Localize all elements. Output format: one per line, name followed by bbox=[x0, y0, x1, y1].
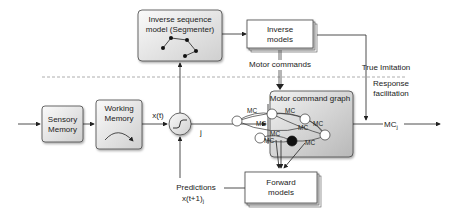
svg-text:MC: MC bbox=[285, 107, 295, 114]
response-facilitation-label-1: Response bbox=[373, 79, 410, 88]
svg-text:MC: MC bbox=[313, 120, 323, 127]
forward-models-label-1: Forward bbox=[266, 178, 295, 187]
sigmoid-threshold-node bbox=[169, 113, 191, 135]
true-imitation-label: True Imitation bbox=[362, 63, 411, 72]
forward-models-box: Forward models bbox=[245, 172, 321, 207]
svg-text:MC: MC bbox=[256, 120, 266, 127]
inverse-models-label-1: Inverse bbox=[267, 25, 294, 34]
sensory-memory-box: Sensory Memory bbox=[42, 106, 83, 142]
inverse-sequence-model-label-2: model (Segmenter) bbox=[146, 25, 215, 34]
working-memory-box: Working Memory bbox=[96, 100, 142, 149]
svg-text:MC: MC bbox=[305, 139, 315, 146]
motor-command-graph-title: Motor command graph bbox=[270, 94, 350, 103]
working-memory-label-2: Memory bbox=[105, 114, 134, 123]
svg-text:MC: MC bbox=[298, 124, 308, 131]
svg-text:MC: MC bbox=[247, 107, 257, 114]
active-node bbox=[287, 136, 297, 146]
motor-commands-label: Motor commands bbox=[249, 60, 311, 69]
diagram-canvas: Inverse sequence model (Segmenter) Inver… bbox=[0, 0, 458, 215]
inverse-sequence-model-box: Inverse sequence model (Segmenter) bbox=[138, 10, 222, 61]
svg-text:MC: MC bbox=[264, 137, 274, 144]
mc-j-output-label: MCj bbox=[384, 120, 398, 130]
forward-models-label-2: models bbox=[268, 188, 294, 197]
motor-commands-arrow bbox=[276, 50, 284, 90]
predictions-label: Predictions bbox=[176, 183, 216, 192]
inverse-models-label-2: models bbox=[267, 35, 293, 44]
working-memory-label-1: Working bbox=[104, 104, 133, 113]
x-t-label: x(t) bbox=[152, 111, 164, 120]
x-t1-label: x(t+1)j bbox=[182, 194, 204, 204]
sensory-memory-label-1: Sensory bbox=[48, 115, 77, 124]
response-facilitation-label-2: facilitation bbox=[373, 89, 409, 98]
inverse-sequence-model-label-1: Inverse sequence bbox=[148, 15, 212, 24]
svg-text:MC: MC bbox=[270, 130, 280, 137]
inverse-models-box: Inverse models bbox=[247, 20, 317, 52]
sensory-memory-label-2: Memory bbox=[48, 125, 77, 134]
j-label: j bbox=[199, 128, 202, 137]
